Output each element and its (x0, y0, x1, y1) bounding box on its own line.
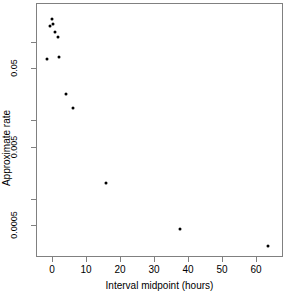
y-axis-tick (31, 225, 36, 226)
x-axis-tick-label: 40 (182, 264, 193, 276)
y-axis-tick-label: 0.05 (10, 59, 19, 77)
y-axis-tick-label: 0.0005 (10, 211, 19, 239)
x-axis-tick (120, 257, 121, 262)
x-axis-tick (154, 257, 155, 262)
y-axis-title: Approximate rate (2, 110, 12, 186)
x-axis-tick-label: 50 (216, 264, 227, 276)
x-axis-tick-label: 60 (250, 264, 261, 276)
y-axis-tick (31, 68, 36, 69)
x-axis-tick (222, 257, 223, 262)
x-axis-tick (256, 257, 257, 262)
x-axis-tick (188, 257, 189, 262)
x-axis-tick (86, 257, 87, 262)
y-axis-tick (31, 147, 36, 148)
y-axis-minor-tick (31, 199, 36, 200)
x-axis-tick-label: 10 (80, 264, 91, 276)
plot-area-frame (36, 3, 283, 257)
x-axis-tick-label: 0 (49, 264, 55, 276)
x-axis-tick-label: 20 (114, 264, 125, 276)
scatter-plot-figure: 0.050.0050.0005 0102030405060 Approximat… (0, 0, 289, 296)
x-axis-tick-label: 30 (148, 264, 159, 276)
y-axis-minor-tick (31, 42, 36, 43)
y-axis-minor-tick (31, 120, 36, 121)
x-axis-title: Interval midpoint (hours) (36, 280, 283, 292)
x-axis-tick (52, 257, 53, 262)
